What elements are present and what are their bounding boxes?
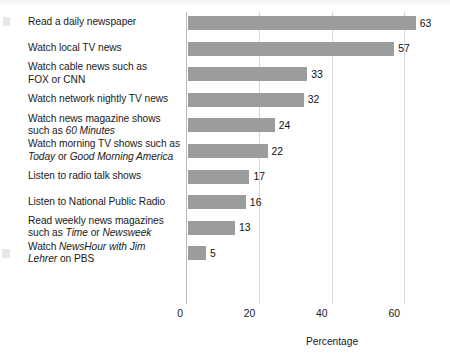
title-italic: 60 Minutes xyxy=(66,125,115,136)
category-label-line: Watch news magazine shows xyxy=(28,113,186,125)
category-label: Read weekly news magazinessuch as Time o… xyxy=(28,215,186,240)
gridline-20 xyxy=(259,12,260,304)
bar xyxy=(188,67,307,81)
label-text: or xyxy=(55,151,70,162)
bar xyxy=(188,118,275,132)
bar-value-label: 33 xyxy=(311,68,323,82)
bar-value-label: 63 xyxy=(420,17,432,31)
category-label-line: Lehrer on PBS xyxy=(28,253,186,265)
category-label-line: Read a daily newspaper xyxy=(28,16,186,28)
bar-value-label: 17 xyxy=(253,170,265,184)
category-label-line: Read weekly news magazines xyxy=(28,215,186,227)
category-label-line: such as 60 Minutes xyxy=(28,125,186,137)
label-text: Watch cable news such as xyxy=(28,61,147,72)
category-label: Watch cable news such asFOX or CNN xyxy=(28,61,186,86)
label-text: FOX or CNN xyxy=(28,74,85,85)
category-label: Listen to radio talk shows xyxy=(28,170,186,182)
label-text: such as xyxy=(28,227,66,238)
bar-value-label: 57 xyxy=(398,42,410,56)
bar-value-label: 5 xyxy=(210,247,216,261)
category-label-line: Listen to National Public Radio xyxy=(28,196,186,208)
label-text: Listen to radio talk shows xyxy=(28,170,141,181)
category-label-line: Today or Good Morning America xyxy=(28,151,186,163)
label-text: on PBS xyxy=(57,253,94,264)
x-axis-title: Percentage xyxy=(306,336,358,347)
bar xyxy=(188,221,235,235)
category-label-line: Watch morning TV shows such as xyxy=(28,138,186,150)
label-text: Read a daily newspaper xyxy=(28,16,136,27)
title-italic: Today xyxy=(28,151,55,162)
category-label-line: such as Time or Newsweek xyxy=(28,227,186,239)
bar-value-label: 13 xyxy=(239,221,251,235)
category-label-line: Watch NewsHour with Jim xyxy=(28,241,186,253)
bar xyxy=(188,144,268,158)
label-text: Watch network nightly TV news xyxy=(28,93,168,104)
bar xyxy=(188,246,206,260)
category-label: Listen to National Public Radio xyxy=(28,196,186,208)
title-italic: NewsHour with Jim xyxy=(59,241,145,252)
bar xyxy=(188,16,416,30)
x-tick-label-0: 0 xyxy=(143,308,183,319)
category-label: Watch morning TV shows such asToday or G… xyxy=(28,138,186,163)
bar-value-label: 16 xyxy=(250,196,262,210)
category-label: Watch NewsHour with JimLehrer on PBS xyxy=(28,241,186,266)
bar-value-label: 24 xyxy=(279,119,291,133)
x-tick-label-60: 60 xyxy=(360,308,400,319)
category-label-line: Watch network nightly TV news xyxy=(28,93,186,105)
label-text: or xyxy=(88,227,103,238)
label-text: Read weekly news magazines xyxy=(28,215,164,226)
bar-chart: Read a daily newspaperWatch local TV new… xyxy=(0,0,450,357)
label-text: Listen to National Public Radio xyxy=(28,196,165,207)
category-label-line: Watch local TV news xyxy=(28,42,186,54)
category-label-line: Watch cable news such as xyxy=(28,61,186,73)
label-text: Watch news magazine shows xyxy=(28,113,161,124)
label-text: Watch xyxy=(28,241,59,252)
bar xyxy=(188,170,249,184)
title-italic: Newsweek xyxy=(102,227,151,238)
category-label-line: Listen to radio talk shows xyxy=(28,170,186,182)
x-tick-label-20: 20 xyxy=(215,308,255,319)
category-label: Watch news magazine showssuch as 60 Minu… xyxy=(28,113,186,138)
title-italic: Lehrer xyxy=(28,253,57,264)
category-label: Watch network nightly TV news xyxy=(28,93,186,105)
bar-value-label: 32 xyxy=(308,93,320,107)
category-label-column: Read a daily newspaperWatch local TV new… xyxy=(0,0,186,357)
y-axis-line xyxy=(186,12,187,304)
plot-area: 6357333224221716135 xyxy=(186,12,450,304)
bar xyxy=(188,93,304,107)
label-text: Watch local TV news xyxy=(28,42,122,53)
bar-value-label: 22 xyxy=(272,145,284,159)
category-label-line: FOX or CNN xyxy=(28,74,186,86)
bar xyxy=(188,42,394,56)
title-italic: Good Morning America xyxy=(70,151,173,162)
bar xyxy=(188,195,246,209)
x-tick-label-40: 40 xyxy=(288,308,328,319)
gridline-40 xyxy=(332,12,333,304)
title-italic: Time xyxy=(66,227,88,238)
category-label: Read a daily newspaper xyxy=(28,16,186,28)
label-text: Watch morning TV shows such as xyxy=(28,138,180,149)
label-text: such as xyxy=(28,125,66,136)
category-label: Watch local TV news xyxy=(28,42,186,54)
